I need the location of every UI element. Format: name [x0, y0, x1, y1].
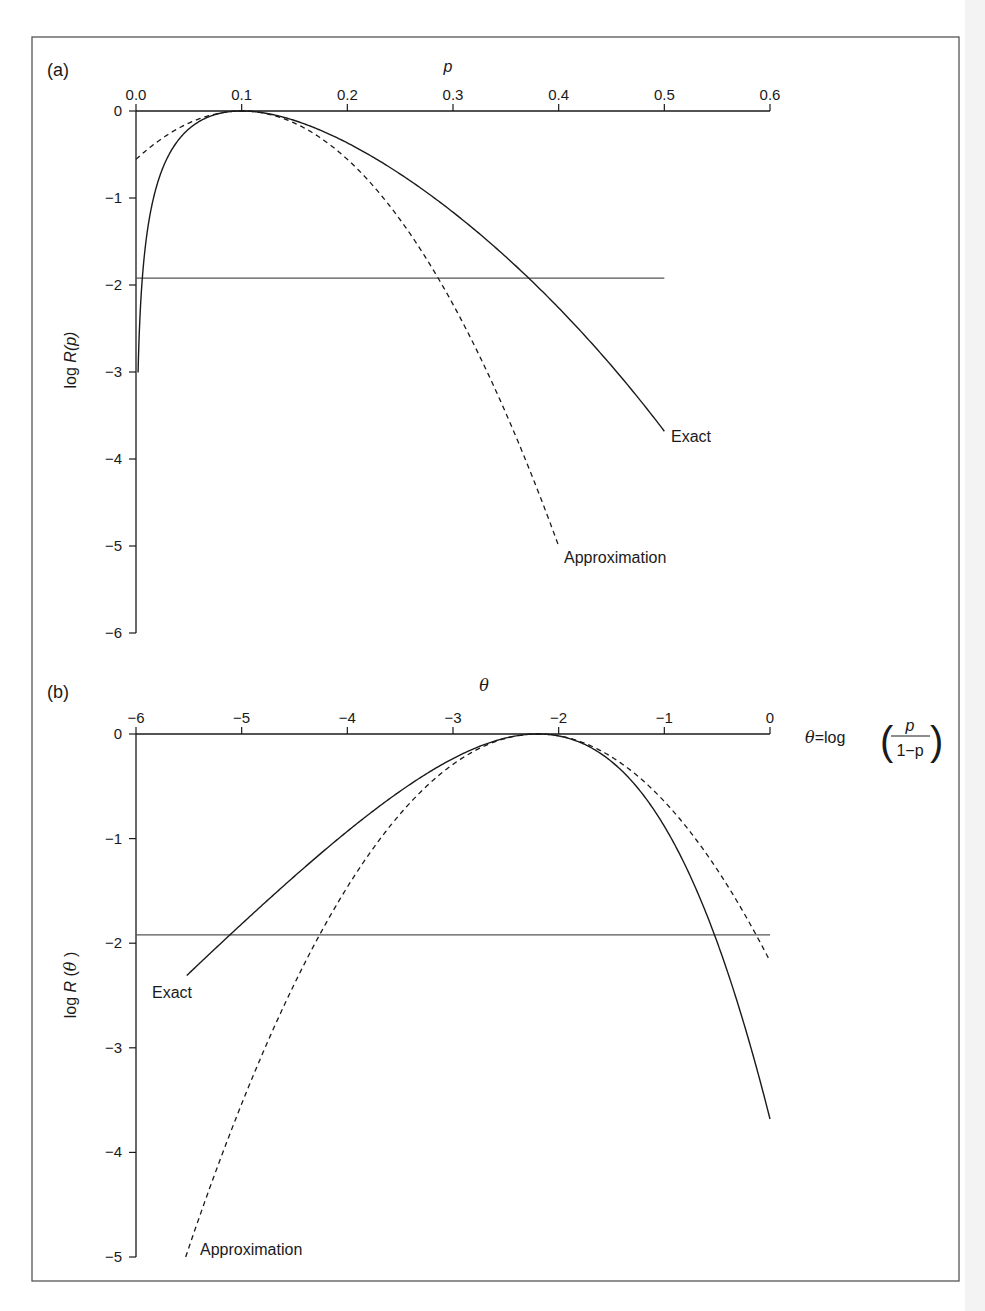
theta-note-numerator: p — [905, 717, 915, 734]
panel-b: (b) θ log R (θ ) −6−5−4−3−2−100−1−2−3−4−… — [47, 676, 943, 1265]
x-tick-label: 0.1 — [231, 86, 252, 103]
x-tick-label: 0.0 — [126, 86, 147, 103]
paren-close: ) — [930, 719, 943, 763]
y-tick-label: 0 — [114, 725, 122, 742]
x-tick-label: −4 — [339, 709, 356, 726]
theta-symbol: θ — [805, 728, 815, 747]
approximation-curve — [136, 111, 559, 546]
x-tick-label: −5 — [233, 709, 250, 726]
y-tick-label: −4 — [105, 450, 122, 467]
x-tick-label: −3 — [444, 709, 461, 726]
y-tick-label: 0 — [114, 102, 122, 119]
x-tick-label: −2 — [550, 709, 567, 726]
x-tick-label: 0.5 — [654, 86, 675, 103]
y-tick-label: −1 — [105, 830, 122, 847]
theta-definition-note: θ=log ( p 1−p ) — [805, 717, 943, 763]
y-title-paren-close: ) — [62, 952, 79, 962]
panel-b-x-axis-title: θ — [479, 676, 489, 695]
y-title-theta: θ — [61, 961, 80, 971]
panel-b-axes: −6−5−4−3−2−100−1−2−3−4−5 — [105, 709, 774, 1265]
x-tick-label: 0.4 — [548, 86, 569, 103]
x-tick-label: −1 — [656, 709, 673, 726]
x-tick-label: 0.3 — [443, 86, 464, 103]
y-title-log: log — [62, 363, 79, 389]
y-tick-label: −2 — [105, 934, 122, 951]
figure-frame — [32, 37, 959, 1281]
panel-b-label: (b) — [47, 682, 69, 702]
exact-curve — [138, 111, 664, 431]
y-tick-label: −3 — [105, 1039, 122, 1056]
exact-curve — [187, 734, 770, 1119]
y-title-r: R — [62, 980, 79, 992]
paren-open: ( — [880, 719, 894, 763]
theta-eq-log: =log — [815, 729, 846, 746]
x-tick-label: 0.2 — [337, 86, 358, 103]
y-tick-label: −5 — [105, 1248, 122, 1265]
y-title-log: log — [62, 992, 79, 1018]
panel-a-y-axis-title: log R(p) — [62, 332, 79, 389]
panel-b-curves — [136, 734, 770, 1257]
panel-b-approximation-label: Approximation — [200, 1241, 302, 1258]
y-tick-label: −6 — [105, 624, 122, 641]
x-tick-label: 0.6 — [760, 86, 781, 103]
theta-note-denominator: 1−p — [896, 742, 923, 759]
figure: (a) p log R(p) 0.00.10.20.30.40.50.60−1−… — [0, 0, 985, 1311]
y-tick-label: −2 — [105, 276, 122, 293]
theta-note-lhs: θ=log — [805, 728, 845, 747]
y-tick-label: −5 — [105, 537, 122, 554]
panel-a-axes: 0.00.10.20.30.40.50.60−1−2−3−4−5−6 — [105, 86, 781, 641]
panel-a-label: (a) — [47, 60, 69, 80]
panel-b-exact-label: Exact — [152, 984, 193, 1001]
x-tick-label: 0 — [766, 709, 774, 726]
approximation-curve — [186, 734, 770, 1257]
panel-a: (a) p log R(p) 0.00.10.20.30.40.50.60−1−… — [47, 58, 780, 641]
y-tick-label: −1 — [105, 189, 122, 206]
panel-a-x-axis-title: p — [443, 58, 453, 75]
x-tick-label: −6 — [127, 709, 144, 726]
panel-a-approximation-label: Approximation — [564, 549, 666, 566]
y-tick-label: −3 — [105, 363, 122, 380]
y-title-r: R(p) — [62, 332, 79, 363]
y-tick-label: −4 — [105, 1143, 122, 1160]
panel-b-y-axis-title: log R (θ ) — [61, 952, 80, 1019]
panel-a-exact-label: Exact — [671, 428, 712, 445]
panel-a-curves — [136, 111, 664, 546]
